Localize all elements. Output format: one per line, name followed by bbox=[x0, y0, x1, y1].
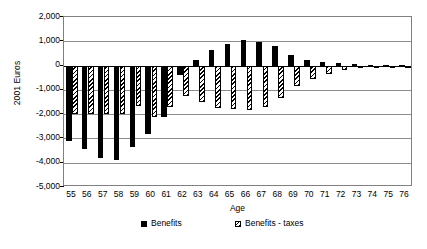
bar-benefits-age-75 bbox=[383, 65, 389, 66]
bar-benefits-taxes-age-59 bbox=[136, 66, 142, 106]
bar-benefits-age-66 bbox=[241, 40, 247, 66]
bar-benefits-taxes-age-76 bbox=[405, 66, 411, 68]
legend-label: Benefits - taxes bbox=[245, 219, 304, 228]
bar-benefits-age-58 bbox=[114, 66, 120, 161]
bar-benefits-age-61 bbox=[161, 66, 167, 117]
bar-benefits-age-60 bbox=[145, 66, 151, 134]
bar-benefits-age-73 bbox=[352, 64, 358, 65]
bar-benefits-taxes-age-73 bbox=[358, 66, 364, 68]
bar-benefits-age-56 bbox=[82, 66, 88, 150]
y-axis-tick-label: -5,000 bbox=[22, 182, 60, 191]
bar-benefits-age-68 bbox=[272, 46, 278, 65]
hatched-swatch bbox=[235, 221, 241, 227]
bar-benefits-taxes-age-71 bbox=[326, 66, 332, 74]
bar-benefits-taxes-age-72 bbox=[342, 66, 348, 70]
bar-benefits-age-76 bbox=[399, 65, 405, 66]
bar-benefits-taxes-age-64 bbox=[215, 66, 221, 109]
y-axis-tick-label: -3,000 bbox=[22, 133, 60, 142]
bar-benefits-age-63 bbox=[193, 60, 199, 66]
y-axis-tick-labels: 2,0001,0000-1,000-2,000-3,000-4,000-5,00… bbox=[18, 0, 60, 249]
bar-benefits-taxes-age-68 bbox=[278, 66, 284, 99]
bar-benefits-taxes-age-60 bbox=[152, 66, 158, 117]
y-axis-tick-label: 0 bbox=[22, 60, 60, 69]
x-axis-tick-labels: 5556575859606162636465666768697071727374… bbox=[63, 189, 412, 201]
x-axis-tick-label-76: 76 bbox=[394, 189, 414, 199]
bar-benefits-age-70 bbox=[304, 60, 310, 66]
bar-benefits-taxes-age-61 bbox=[167, 66, 173, 107]
y-axis-tickmark bbox=[60, 186, 64, 187]
bar-benefits-age-72 bbox=[336, 63, 342, 65]
legend-label: Benefits bbox=[151, 219, 182, 228]
y-axis-tick-label: 2,000 bbox=[22, 12, 60, 21]
bar-benefits-taxes-age-65 bbox=[231, 66, 237, 110]
bar-benefits-taxes-age-57 bbox=[104, 66, 110, 115]
bar-benefits-age-71 bbox=[320, 62, 326, 66]
bar-benefits-age-74 bbox=[368, 65, 374, 66]
bar-benefits-taxes-age-70 bbox=[310, 66, 316, 79]
y-axis-tick-label: 1,000 bbox=[22, 36, 60, 45]
bar-benefits-age-69 bbox=[288, 55, 294, 66]
bar-benefits-taxes-age-67 bbox=[263, 66, 269, 107]
bar-benefits-taxes-age-58 bbox=[120, 66, 126, 115]
bar-benefits-taxes-age-62 bbox=[183, 66, 189, 96]
bar-benefits-age-67 bbox=[256, 42, 262, 66]
bar-benefits-taxes-age-63 bbox=[199, 66, 205, 102]
x-axis-title: Age bbox=[63, 203, 412, 213]
bar-benefits-taxes-age-69 bbox=[294, 66, 300, 87]
legend-entry-benefits: Benefits bbox=[141, 219, 182, 228]
y-axis-tick-label: -2,000 bbox=[22, 109, 60, 118]
chart-legend: BenefitsBenefits - taxes bbox=[63, 219, 412, 233]
bar-benefits-taxes-age-56 bbox=[88, 66, 94, 115]
y-axis-tick-label: -1,000 bbox=[22, 84, 60, 93]
gridline bbox=[64, 41, 411, 42]
y-axis-tick-label: -4,000 bbox=[22, 157, 60, 166]
bar-benefits-taxes-age-75 bbox=[390, 66, 396, 68]
legend-entry-benefits-taxes: Benefits - taxes bbox=[235, 219, 304, 228]
bar-benefits-age-59 bbox=[130, 66, 136, 147]
chart-figure: 2001 Euros 2,0001,0000-1,000-2,000-3,000… bbox=[0, 0, 427, 249]
bar-benefits-age-62 bbox=[177, 66, 183, 75]
bar-benefits-taxes-age-74 bbox=[374, 66, 380, 68]
gridline bbox=[64, 163, 411, 164]
plot-area bbox=[63, 16, 412, 186]
bar-benefits-age-57 bbox=[98, 66, 104, 158]
solid-black-swatch bbox=[141, 221, 147, 227]
bar-benefits-age-64 bbox=[209, 50, 215, 66]
bar-benefits-taxes-age-55 bbox=[72, 66, 78, 115]
bar-benefits-age-65 bbox=[225, 44, 231, 65]
bar-benefits-taxes-age-66 bbox=[247, 66, 253, 110]
bar-benefits-age-55 bbox=[66, 66, 72, 141]
